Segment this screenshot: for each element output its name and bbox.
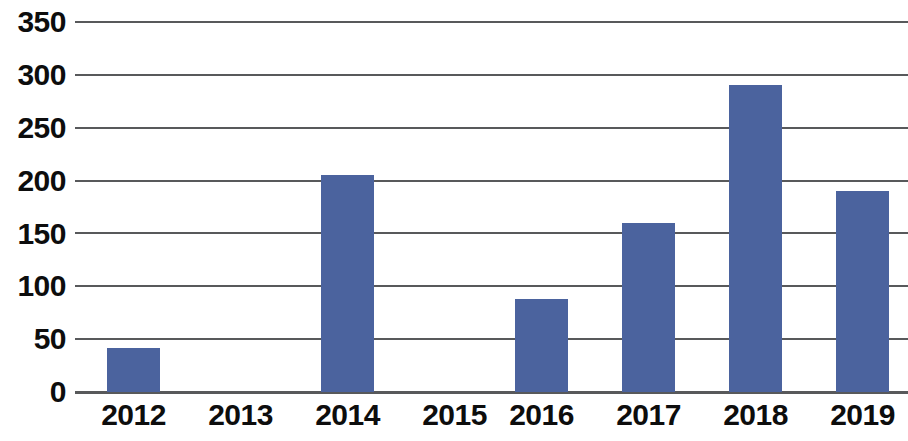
bar-2012 bbox=[107, 348, 160, 392]
bar-2017 bbox=[622, 223, 675, 392]
bar-2014 bbox=[321, 175, 374, 392]
plot-area bbox=[75, 22, 908, 392]
x-axis-tick-label-2018: 2018 bbox=[702, 398, 809, 431]
y-axis-tick-label: 200 bbox=[0, 166, 66, 196]
x-axis-tick-label-2017: 2017 bbox=[595, 398, 702, 431]
x-axis-tick-label-2014: 2014 bbox=[294, 398, 401, 431]
y-axis: 350 300 250 200 150 100 50 0 bbox=[0, 0, 66, 392]
x-axis: 2012 2013 2014 2015 2016 2017 2018 2019 bbox=[75, 398, 908, 441]
bar-2016 bbox=[515, 299, 568, 392]
y-axis-tick-label: 300 bbox=[0, 60, 66, 90]
x-axis-tick-label-2019: 2019 bbox=[809, 398, 908, 431]
bar-chart: 350 300 250 200 150 100 50 0 2012 201 bbox=[0, 0, 908, 441]
y-axis-tick-label: 350 bbox=[0, 7, 66, 37]
bar-2018 bbox=[729, 85, 782, 392]
y-axis-tick-label: 150 bbox=[0, 219, 66, 249]
y-axis-tick-label: 100 bbox=[0, 271, 66, 301]
x-axis-tick-label-2016: 2016 bbox=[488, 398, 595, 431]
y-axis-tick-label: 0 bbox=[0, 377, 66, 407]
y-axis-tick-label: 250 bbox=[0, 113, 66, 143]
bar-2019 bbox=[836, 191, 889, 392]
bars-layer bbox=[75, 22, 908, 392]
x-axis-tick-label-2012: 2012 bbox=[80, 398, 187, 431]
y-axis-tick-label: 50 bbox=[0, 324, 66, 354]
x-axis-tick-label-2013: 2013 bbox=[187, 398, 294, 431]
